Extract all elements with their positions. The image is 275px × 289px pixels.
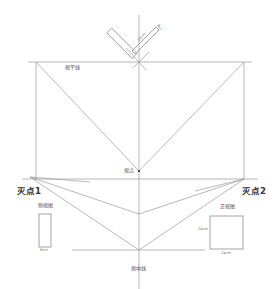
plan-diagonal-mark (126, 48, 146, 70)
viewpoint-label: 视点 (124, 168, 134, 173)
sight-line-left (36, 62, 139, 171)
top-box-width-dim: 8 (158, 25, 160, 29)
sight-line-right (139, 62, 244, 171)
vp2-to-center-lower (139, 179, 244, 250)
vp1-to-center-upper (30, 177, 139, 214)
front-view-label: 正视图 (220, 204, 235, 209)
plan-rectangle (132, 27, 159, 54)
horizon-line-label: 视平线 (65, 65, 80, 70)
front-view-width-dim: 24cm (221, 252, 231, 256)
perspective-diagram (0, 0, 275, 289)
plan-view-box (103, 21, 149, 67)
vp1-ray (30, 177, 90, 182)
side-view-box (39, 214, 51, 247)
side-view-width-dim: 8cm (40, 249, 48, 253)
front-view-height-dim: 24cm (198, 228, 208, 232)
vanishing-point-1-label: 灭点1 (17, 187, 41, 196)
vp2-ray (195, 179, 244, 191)
vanishing-point-2-label: 灭点2 (242, 187, 266, 196)
center-line-label: 视中线 (131, 266, 146, 271)
side-view-label: 侧视图 (38, 203, 53, 208)
vp1-to-center-lower (30, 177, 139, 250)
front-view-box (210, 216, 243, 249)
viewpoint-dot (138, 170, 140, 172)
